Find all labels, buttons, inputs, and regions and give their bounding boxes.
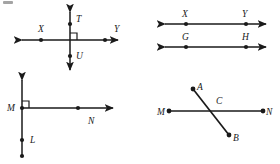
point-l-dot	[20, 138, 24, 142]
figure-1-perpendicular-lines-TU-XY: T X Y U	[22, 12, 121, 70]
point-g-dot	[184, 45, 188, 49]
label-n2: N	[265, 107, 273, 117]
label-b: B	[233, 133, 239, 143]
point-m2-dot	[167, 109, 172, 114]
point-n2-dot	[261, 109, 266, 114]
label-m: M	[6, 103, 16, 113]
label-c: C	[216, 96, 223, 106]
label-x2: X	[181, 9, 189, 19]
label-t: T	[76, 14, 82, 24]
scan-smudge-artifact	[3, 1, 13, 4]
geometry-figures-svg: T X Y U X Y G H	[0, 0, 280, 164]
point-b-dot	[227, 133, 232, 138]
figure-2-parallel-lines-XY-GH: X Y G H	[165, 9, 266, 49]
point-x-dot	[39, 38, 43, 42]
point-y2-dot	[244, 22, 248, 26]
label-h: H	[241, 32, 250, 42]
label-x: X	[37, 24, 45, 34]
label-m2: M	[156, 107, 166, 117]
segment-endpoint-dot	[20, 154, 24, 158]
point-a-dot	[191, 87, 196, 92]
segment-ab	[193, 89, 229, 135]
label-l: L	[29, 135, 35, 145]
point-n-dot	[76, 106, 80, 110]
figure-3-perpendicular-ray-MN: M N L	[6, 80, 113, 158]
figure-4-intersecting-segments-AB-MN: A C M N B	[156, 82, 273, 143]
point-h-dot	[244, 45, 248, 49]
right-angle-marker-1	[70, 33, 77, 40]
label-a: A	[196, 82, 203, 92]
label-g: G	[182, 32, 189, 42]
label-y: Y	[114, 24, 121, 34]
point-m-dot	[20, 106, 24, 110]
point-t-dot	[68, 22, 72, 26]
label-n: N	[87, 116, 95, 126]
label-y2: Y	[242, 9, 249, 19]
point-y-dot	[103, 38, 107, 42]
point-x2-dot	[184, 22, 188, 26]
label-u: U	[76, 51, 84, 61]
point-u-dot	[68, 54, 72, 58]
worksheet-canvas: T X Y U X Y G H	[0, 0, 280, 164]
